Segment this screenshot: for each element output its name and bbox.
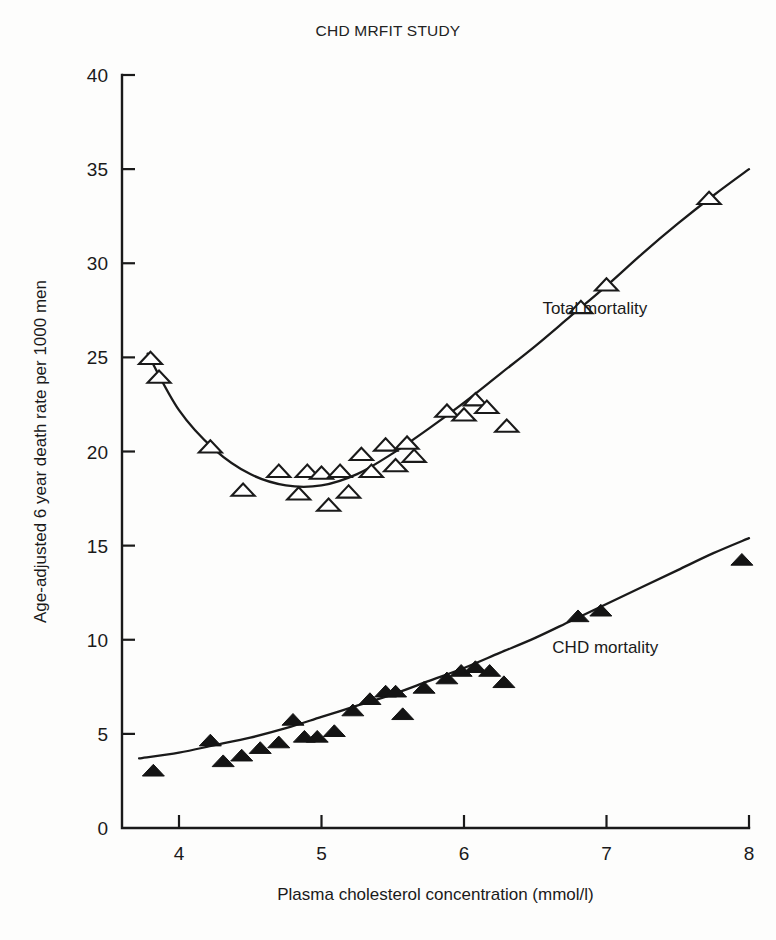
- y-tick-label: 40: [87, 65, 108, 86]
- y-tick-label: 25: [87, 347, 108, 368]
- data-point-open-triangle: [337, 485, 360, 497]
- x-tick-label: 8: [744, 843, 755, 864]
- x-tick-label-group: 45678: [174, 843, 755, 864]
- data-point-filled-triangle: [142, 764, 164, 776]
- data-point-open-triangle: [495, 419, 518, 431]
- chart-figure: CHD MRFIT STUDY 0510152025303540 45678 T…: [0, 0, 776, 940]
- y-tick-label: 20: [87, 442, 108, 463]
- y-tick-label: 10: [87, 630, 108, 651]
- series-label-2: CHD mortality: [552, 638, 658, 657]
- data-point-open-triangle: [317, 499, 340, 511]
- data-point-open-triangle: [139, 352, 162, 364]
- data-point-filled-triangle: [231, 749, 253, 761]
- x-tick-label: 5: [316, 843, 327, 864]
- data-point-open-triangle: [232, 483, 255, 495]
- fit-curve-group: [139, 169, 749, 758]
- data-point-open-triangle: [148, 371, 171, 383]
- y-tick-label: 5: [97, 724, 108, 745]
- series-label-1: Total mortality: [542, 299, 647, 318]
- x-tick-label: 4: [174, 843, 185, 864]
- data-point-open-triangle: [329, 465, 352, 477]
- data-point-open-triangle: [374, 438, 397, 450]
- data-point-open-triangle: [199, 440, 222, 452]
- data-marker-group: [139, 192, 753, 776]
- chart-plot-area: 0510152025303540 45678 Total mortalityCH…: [0, 0, 776, 940]
- y-tick-label: 35: [87, 159, 108, 180]
- y-tick-label: 15: [87, 536, 108, 557]
- y-tick-label-group: 0510152025303540: [87, 65, 108, 839]
- data-point-filled-triangle: [323, 725, 345, 737]
- data-point-filled-triangle: [199, 734, 221, 746]
- data-point-filled-triangle: [392, 708, 414, 720]
- data-point-open-triangle: [403, 450, 426, 462]
- data-point-open-triangle: [267, 465, 290, 477]
- axis-title-group: Plasma cholesterol concentration (mmol/l…: [31, 280, 594, 904]
- y-axis-title: Age-adjusted 6 year death rate per 1000 …: [31, 280, 50, 623]
- data-point-filled-triangle: [567, 610, 589, 622]
- fit-curve-1: [148, 169, 749, 487]
- x-tick-label: 6: [459, 843, 470, 864]
- data-point-filled-triangle: [493, 676, 515, 688]
- x-axis-title: Plasma cholesterol concentration (mmol/l…: [277, 885, 594, 904]
- data-point-filled-triangle: [413, 681, 435, 693]
- data-point-filled-triangle: [731, 553, 753, 565]
- data-point-open-triangle: [350, 448, 373, 460]
- y-tick-label: 30: [87, 253, 108, 274]
- data-point-open-triangle: [287, 487, 310, 499]
- data-point-filled-triangle: [282, 713, 304, 725]
- y-tick-label: 0: [97, 818, 108, 839]
- x-tick-label: 7: [601, 843, 612, 864]
- series-label-group: Total mortalityCHD mortality: [542, 299, 658, 657]
- data-point-filled-triangle: [268, 736, 290, 748]
